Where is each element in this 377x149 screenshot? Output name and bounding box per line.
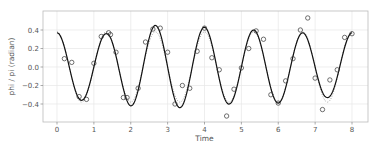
x-tick-label: 0: [55, 126, 59, 134]
x-tick-label: 8: [350, 126, 354, 134]
x-axis-label: Time: [194, 134, 214, 143]
y-axis-ticks: 0.40.20.0−0.2−0.4: [22, 27, 43, 109]
y-tick-label: 0.0: [28, 64, 39, 72]
y-tick-label: −0.4: [22, 101, 40, 109]
y-tick-label: 0.4: [28, 27, 40, 35]
chart: 012345678 0.40.20.0−0.2−0.4 Time phi / p…: [0, 0, 377, 149]
x-tick-label: 3: [165, 126, 169, 134]
y-axis-label: phi / pi (radian): [7, 38, 16, 96]
x-tick-label: 6: [276, 126, 281, 134]
x-tick-label: 4: [202, 126, 207, 134]
y-tick-label: −0.2: [22, 82, 39, 90]
x-tick-label: 2: [129, 126, 133, 134]
x-tick-label: 7: [313, 126, 317, 134]
x-tick-label: 5: [239, 126, 243, 134]
y-tick-label: 0.2: [28, 45, 39, 53]
x-axis-ticks: 012345678: [55, 122, 354, 134]
x-tick-label: 1: [92, 126, 96, 134]
